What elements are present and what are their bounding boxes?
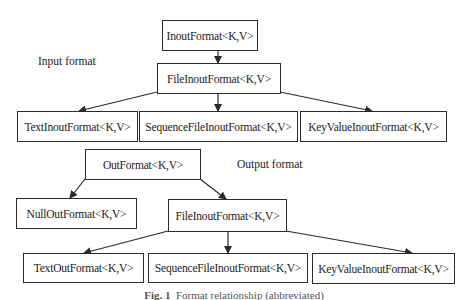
node-out-format: OutFormat<K,V> [85, 149, 201, 180]
output-format-label: Output format [237, 158, 302, 170]
edge-fileinout-to-textinout [79, 92, 157, 111]
figure-caption: Fig. 1 Format relationship (abbreviated) [0, 289, 468, 300]
node-key-value-out-format: KeyValueInoutFormat<K,V> [312, 253, 455, 284]
format-hierarchy-diagram: Input format InoutFormat<K,V> FileInoutF… [0, 0, 468, 300]
node-text-out-format: TextOutFormat<K,V> [23, 253, 144, 283]
caption-text: Format relationship (abbreviated) [176, 289, 324, 300]
edge-fileout-to-keyvalue [286, 231, 412, 253]
caption-prefix: Fig. 1 [144, 289, 170, 300]
edge-outformat-to-fileinout [200, 179, 226, 199]
input-format-label: Input format [38, 55, 96, 67]
node-null-out-format: NullOutFormat<K,V> [16, 198, 137, 229]
edge-outformat-to-null [70, 179, 85, 198]
node-inout-format: InoutFormat<K,V> [162, 20, 258, 51]
node-key-value-inout-format: KeyValueInoutFormat<K,V> [300, 111, 447, 142]
edge-fileinout-to-keyvalue [280, 92, 372, 111]
node-text-inout-format: TextInoutFormat<K,V> [17, 111, 138, 142]
node-file-out-format: FileInoutFormat<K,V> [168, 199, 287, 232]
node-sequence-file-inout-format: SequenceFileInoutFormat<K,V> [139, 111, 298, 142]
node-file-inout-format: FileInoutFormat<K,V> [157, 63, 281, 94]
node-sequence-file-out-format: SequenceFileInoutFormat<K,V> [148, 253, 308, 283]
edge-fileout-to-textout [84, 231, 168, 253]
